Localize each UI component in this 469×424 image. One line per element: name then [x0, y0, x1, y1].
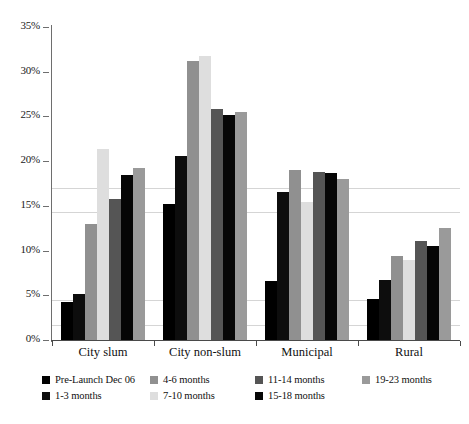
bar-group — [256, 27, 358, 340]
legend-item[interactable]: 19-23 months — [362, 372, 432, 387]
x-category-separator — [52, 341, 53, 346]
bar-cluster — [265, 27, 349, 340]
x-category-separator — [460, 341, 461, 346]
y-tick-label: 20% — [20, 153, 40, 165]
bar[interactable] — [313, 172, 325, 340]
bar[interactable] — [391, 256, 403, 340]
chart-page: 0%5%10%15%20%25%30%35% City slumCity non… — [0, 0, 469, 424]
bar[interactable] — [325, 173, 337, 340]
bar[interactable] — [337, 179, 349, 340]
bar[interactable] — [439, 228, 451, 340]
bar[interactable] — [133, 168, 145, 340]
y-tick: 10% — [0, 251, 52, 252]
x-category-separator — [154, 341, 155, 346]
y-tick-label: 5% — [26, 287, 40, 299]
bar[interactable] — [289, 170, 301, 340]
y-tick-mark — [43, 116, 49, 117]
bar[interactable] — [199, 56, 211, 340]
bar[interactable] — [211, 109, 223, 340]
y-tick: 35% — [0, 27, 52, 28]
y-tick-mark — [43, 206, 49, 207]
bar[interactable] — [97, 149, 109, 340]
bar[interactable] — [73, 294, 85, 340]
legend-swatch-icon — [255, 392, 263, 400]
legend-swatch-icon — [362, 376, 370, 384]
legend-label: 15-18 months — [268, 390, 325, 401]
legend-item[interactable]: 11-14 months — [255, 372, 325, 387]
legend-column: Pre-Launch Dec 061-3 months — [42, 372, 135, 404]
legend-swatch-icon — [42, 392, 50, 400]
x-category-label: Municipal — [256, 345, 358, 360]
x-category-separator — [256, 341, 257, 346]
legend-column: 19-23 months — [362, 372, 432, 388]
legend-swatch-icon — [150, 392, 158, 400]
bar-cluster — [367, 27, 451, 340]
y-tick-label: 35% — [20, 19, 40, 31]
legend-label: Pre-Launch Dec 06 — [55, 374, 135, 385]
bar[interactable] — [265, 281, 277, 340]
legend-label: 7-10 months — [163, 390, 215, 401]
y-tick-label: 30% — [20, 64, 40, 76]
x-category-label: Rural — [358, 345, 460, 360]
bar[interactable] — [187, 61, 199, 340]
legend-item[interactable]: 4-6 months — [150, 372, 215, 387]
bar[interactable] — [367, 299, 379, 340]
bar[interactable] — [109, 199, 121, 340]
bar-group — [52, 27, 154, 340]
legend-swatch-icon — [150, 376, 158, 384]
legend-label: 1-3 months — [55, 390, 102, 401]
legend-label: 4-6 months — [163, 374, 210, 385]
y-tick: 15% — [0, 206, 52, 207]
y-tick: 5% — [0, 295, 52, 296]
y-tick: 0% — [0, 340, 52, 341]
chart-legend: Pre-Launch Dec 061-3 months4-6 months7-1… — [42, 372, 462, 406]
y-tick-mark — [43, 251, 49, 252]
x-category-label: City slum — [52, 345, 154, 360]
legend-column: 11-14 months15-18 months — [255, 372, 325, 404]
bar[interactable] — [61, 302, 73, 340]
x-category-label: City non-slum — [154, 345, 256, 360]
legend-item[interactable]: 1-3 months — [42, 388, 135, 403]
bar[interactable] — [379, 280, 391, 340]
y-tick-label: 25% — [20, 108, 40, 120]
y-tick: 25% — [0, 116, 52, 117]
y-tick-mark — [43, 295, 49, 296]
y-tick: 30% — [0, 72, 52, 73]
legend-item[interactable]: 15-18 months — [255, 388, 325, 403]
bar[interactable] — [85, 224, 97, 340]
bar[interactable] — [277, 192, 289, 340]
legend-label: 19-23 months — [375, 374, 432, 385]
y-tick-mark — [43, 27, 49, 28]
bar-cluster — [61, 27, 145, 340]
bar-group — [154, 27, 256, 340]
bar[interactable] — [121, 175, 133, 340]
bar[interactable] — [301, 202, 313, 340]
bar[interactable] — [403, 260, 415, 340]
y-tick-label: 10% — [20, 243, 40, 255]
y-tick: 20% — [0, 161, 52, 162]
x-category-separator — [358, 341, 359, 346]
bar[interactable] — [427, 246, 439, 340]
y-tick-label: 15% — [20, 198, 40, 210]
plot-area — [52, 27, 460, 340]
bar[interactable] — [163, 204, 175, 340]
bar[interactable] — [175, 156, 187, 340]
legend-swatch-icon — [42, 376, 50, 384]
bar-group — [358, 27, 460, 340]
legend-item[interactable]: Pre-Launch Dec 06 — [42, 372, 135, 387]
legend-swatch-icon — [255, 376, 263, 384]
legend-column: 4-6 months7-10 months — [150, 372, 215, 404]
y-tick-label: 0% — [26, 332, 40, 344]
y-tick-mark — [43, 72, 49, 73]
legend-label: 11-14 months — [268, 374, 324, 385]
bar[interactable] — [223, 115, 235, 340]
bar[interactable] — [415, 241, 427, 340]
legend-item[interactable]: 7-10 months — [150, 388, 215, 403]
y-tick-mark — [43, 340, 49, 341]
y-tick-mark — [43, 161, 49, 162]
bar[interactable] — [235, 112, 247, 340]
bar-cluster — [163, 27, 247, 340]
